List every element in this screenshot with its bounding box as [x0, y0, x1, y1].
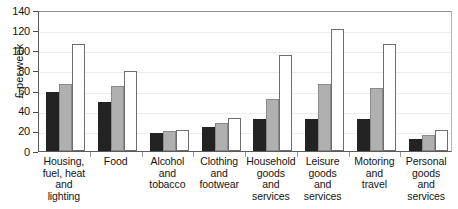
bar: [46, 92, 59, 151]
category-label-line: services: [293, 191, 353, 203]
bar-group: [253, 10, 292, 151]
bar-chart: £ per week 020406080100120140 Housing,fu…: [0, 0, 458, 209]
bar-group: [46, 10, 85, 151]
y-axis-tick-label: 60: [0, 86, 30, 97]
bar: [422, 135, 435, 151]
bar: [163, 131, 176, 151]
category-label-line: and: [396, 179, 456, 191]
bar: [202, 127, 215, 151]
bar: [370, 88, 383, 151]
category-label: Personalgoodsandservices: [396, 156, 456, 202]
bar: [383, 44, 396, 151]
bar: [59, 84, 72, 151]
y-axis-tick-label: 0: [0, 147, 30, 158]
bar: [215, 123, 228, 151]
bar: [98, 102, 111, 151]
bar-group: [150, 10, 189, 151]
bar: [253, 119, 266, 151]
cropped-caption-strip: [0, 0, 458, 6]
y-axis-tick-label: 100: [0, 46, 30, 57]
bar: [357, 119, 370, 151]
category-label-line: and: [34, 179, 94, 191]
y-axis-tick: [33, 152, 38, 153]
bar-group: [305, 10, 344, 151]
bar-group: [98, 10, 137, 151]
bar-group: [357, 10, 396, 151]
y-axis-tick-label: 80: [0, 66, 30, 77]
category-label-line: services: [396, 191, 456, 203]
bar: [266, 99, 279, 151]
category-label-line: lighting: [34, 191, 94, 203]
bar: [111, 86, 124, 151]
y-axis-tick-label: 40: [0, 106, 30, 117]
category-label-line: Personal: [396, 156, 456, 168]
plot-area: [38, 11, 452, 152]
y-axis-tick-label: 140: [0, 6, 30, 17]
bar: [318, 84, 331, 151]
bar: [72, 44, 85, 151]
y-axis-tick-label: 120: [0, 26, 30, 37]
bar: [435, 130, 448, 151]
y-axis-tick-label: 20: [0, 126, 30, 137]
bar: [409, 139, 422, 151]
bar-group: [202, 10, 241, 151]
bar: [150, 133, 163, 151]
bar: [228, 118, 241, 151]
bar: [305, 119, 318, 151]
bar: [176, 130, 189, 151]
bar: [279, 55, 292, 151]
bar: [124, 71, 137, 151]
bar-group: [409, 10, 448, 151]
bar: [331, 29, 344, 151]
